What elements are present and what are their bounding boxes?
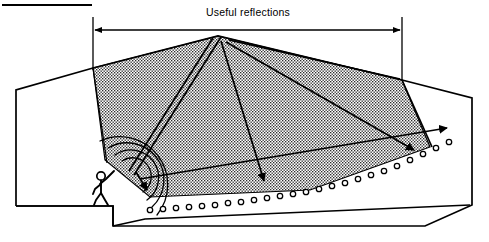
audience-seat <box>316 186 321 191</box>
audience-seat <box>394 163 399 168</box>
audience-seat <box>199 203 204 208</box>
floor-rake-line <box>113 205 470 226</box>
audience-seat <box>420 151 425 156</box>
speaker-figure <box>93 171 114 205</box>
audience-seat <box>147 207 152 212</box>
audience-seat <box>251 197 256 202</box>
audience-seat <box>277 193 282 198</box>
audience-seat <box>355 176 360 181</box>
speaker-right-leg <box>101 193 108 205</box>
useful-reflections-label: Useful reflections <box>206 6 290 18</box>
audience-seat <box>329 183 334 188</box>
audience-seat <box>342 180 347 185</box>
audience-seat <box>238 199 243 204</box>
speaker-lowered-arm <box>93 184 101 194</box>
audience-seat <box>303 189 308 194</box>
audience-seat <box>433 145 438 150</box>
audience-seat <box>407 157 412 162</box>
figure-canvas: Useful reflections <box>0 0 489 242</box>
acoustic-section-figure: Useful reflections <box>0 0 489 242</box>
audience-seat <box>212 202 217 207</box>
audience-seat <box>264 195 269 200</box>
audience-seat <box>186 204 191 209</box>
audience-seat <box>225 200 230 205</box>
audience-seat <box>160 206 165 211</box>
audience-seat <box>446 139 451 144</box>
audience-seat <box>290 191 295 196</box>
speaker-left-leg <box>94 193 101 205</box>
audience-seat <box>381 168 386 173</box>
speaker-head <box>97 172 105 180</box>
audience-seat <box>173 205 178 210</box>
audience-seat <box>368 172 373 177</box>
stage-front-face <box>16 206 113 226</box>
